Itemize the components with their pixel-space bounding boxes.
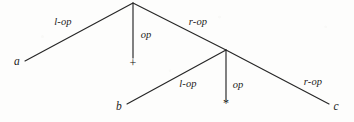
leaf-b: b bbox=[116, 101, 122, 113]
root-right-edge bbox=[133, 3, 226, 50]
edge-label-root-op: op bbox=[141, 30, 152, 41]
tree-edges-canvas bbox=[0, 0, 354, 122]
edge-label-sub-l-op: l-op bbox=[179, 79, 196, 90]
operator-plus-symbol: + bbox=[130, 57, 137, 69]
leaf-c: c bbox=[333, 101, 338, 113]
root-left-edge bbox=[25, 3, 133, 61]
sub-left-edge bbox=[127, 50, 226, 104]
edge-label-root-r-op: r-op bbox=[189, 17, 207, 28]
leaf-a: a bbox=[14, 56, 20, 68]
edge-label-root-l-op: l-op bbox=[54, 17, 71, 28]
parse-tree-figure: l-opopr-opl-opopr-opabc+* bbox=[0, 0, 354, 122]
operator-times-symbol: * bbox=[223, 97, 229, 109]
edge-label-sub-op: op bbox=[233, 80, 244, 91]
edge-label-sub-r-op: r-op bbox=[304, 77, 322, 88]
